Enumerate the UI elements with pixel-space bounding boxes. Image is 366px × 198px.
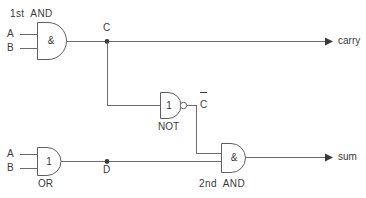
- not-title-label: NOT: [158, 122, 179, 132]
- and1-input-b-label: B: [7, 43, 14, 53]
- c-branch-wire: [107, 42, 160, 106]
- and1-symbol: &: [41, 35, 61, 46]
- not-symbol: 1: [163, 100, 175, 111]
- and2-symbol: &: [226, 152, 242, 163]
- c-bar-text: C: [200, 99, 207, 110]
- circuit-schematic-canvas: [0, 0, 366, 198]
- or-symbol: 1: [42, 156, 56, 167]
- not-output-bubble-icon: [180, 102, 186, 108]
- first-and-title-label: 1st AND: [10, 9, 53, 19]
- second-and-title-label: 2nd AND: [199, 179, 245, 189]
- and1-input-a-label: A: [7, 29, 14, 39]
- logic-circuit-diagram: 1st AND & A B C carry 1 NOT C 1 OR A B D…: [0, 0, 366, 198]
- or-input-a-label: A: [7, 149, 14, 159]
- not-output-wire: [187, 106, 221, 154]
- c-bar-overbar-icon: [200, 92, 207, 93]
- gate-and-1: [20, 23, 325, 60]
- output-sum-label: sum: [338, 152, 357, 162]
- output-carry-label: carry: [338, 36, 360, 46]
- or-input-b-label: B: [7, 163, 14, 173]
- node-c-bar-label: C: [200, 94, 207, 112]
- sum-arrowhead: [325, 154, 333, 162]
- or-title-label: OR: [38, 179, 53, 189]
- node-c-label: C: [103, 23, 110, 33]
- node-d-label: D: [103, 165, 110, 175]
- carry-arrowhead: [325, 38, 333, 46]
